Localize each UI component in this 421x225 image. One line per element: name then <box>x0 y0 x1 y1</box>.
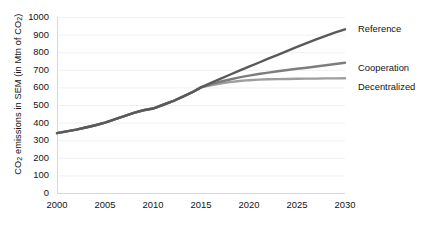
chart-figure: CO2 emissions in SEM (in Mtn of CO2) 010… <box>0 0 421 225</box>
series-label-decentralized: Decentralized <box>358 82 415 92</box>
series-label-cooperation: Cooperation <box>358 63 409 73</box>
series-label-layer: ReferenceCooperationDecentralized <box>0 0 421 225</box>
series-label-reference: Reference <box>358 24 401 34</box>
